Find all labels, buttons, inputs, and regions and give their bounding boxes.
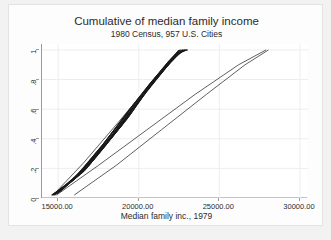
series-group <box>51 50 268 195</box>
y-tick-label: .6 <box>29 109 38 139</box>
x-tick-label: 20000.00 <box>122 202 153 211</box>
cdf-curve <box>55 50 182 195</box>
x-tick-mark <box>218 198 219 201</box>
x-tick-mark <box>57 198 58 201</box>
y-axis-ticks: 0.2.4.6.81 <box>9 44 39 198</box>
y-tick-label: 1 <box>29 49 38 79</box>
y-tick-label: .2 <box>29 168 38 198</box>
chart-subtitle: 1980 Census, 957 U.S. Cities <box>9 29 324 40</box>
x-tick-label: 25000.00 <box>203 202 234 211</box>
x-tick-mark <box>138 198 139 201</box>
plot-region <box>41 44 307 198</box>
x-tick-mark <box>299 198 300 201</box>
y-tick-label: .8 <box>29 79 38 109</box>
chart-title: Cumulative of median family income <box>9 14 324 28</box>
x-tick-label: 30000.00 <box>283 202 314 211</box>
plot-lines <box>42 44 308 198</box>
x-tick-label: 15000.00 <box>41 202 72 211</box>
cdf-curve <box>74 50 268 195</box>
graph-region: Cumulative of median family income 1980 … <box>8 4 323 226</box>
chart-screenshot: Cumulative of median family income 1980 … <box>0 0 331 240</box>
gridlines <box>42 44 308 198</box>
x-axis-title: Median family inc., 1979 <box>9 211 324 221</box>
y-tick-label: .4 <box>29 138 38 168</box>
title-block: Cumulative of median family income 1980 … <box>9 14 324 40</box>
